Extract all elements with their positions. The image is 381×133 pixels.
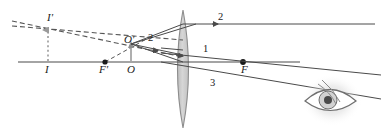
ray-upper-arrow: [150, 50, 158, 51]
label-object-tip: O': [124, 34, 134, 45]
observer-eye: [302, 74, 362, 126]
ray-2-object-to-lens: [131, 24, 183, 44]
virtual-ray-extension-upper: [12, 26, 183, 40]
label-focal-right: F: [241, 64, 248, 75]
label-image-base: I: [45, 64, 49, 75]
optics-ray-diagram-figure: I' I O' O F' F 1 2 3 2: [0, 0, 381, 133]
label-ray-3: 3: [210, 78, 215, 89]
virtual-ray-extension-lower: [12, 21, 183, 57]
label-ray-1: 1: [203, 44, 208, 55]
label-object-base: O: [127, 64, 135, 75]
label-ray-2-near-lens: 2: [148, 33, 153, 44]
ray-diagram-canvas: [0, 0, 381, 133]
label-ray-2: 2: [218, 12, 223, 23]
label-focal-left: F': [99, 64, 108, 75]
ray-1-refracted: [161, 53, 381, 75]
label-image-tip: I': [47, 12, 53, 23]
